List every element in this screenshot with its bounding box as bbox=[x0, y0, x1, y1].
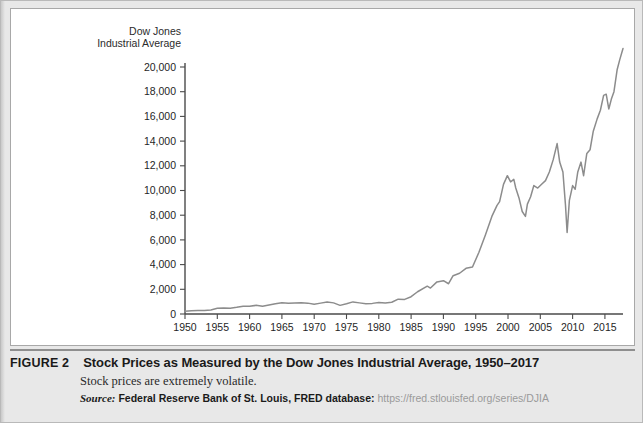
source-label: Source: bbox=[80, 392, 115, 404]
y-axis-tick-label: 2,000 bbox=[150, 283, 176, 295]
chart-panel: Dow JonesIndustrial Average02,0004,0006,… bbox=[10, 8, 635, 346]
x-axis-tick-label: 1990 bbox=[432, 321, 456, 333]
x-axis-tick-label: 2015 bbox=[593, 321, 617, 333]
y-axis-tick-label: 20,000 bbox=[144, 61, 176, 73]
caption-divider bbox=[10, 349, 635, 351]
figure-caption: FIGURE 2 Stock Prices as Measured by the… bbox=[10, 353, 635, 415]
y-axis-tick-label: 16,000 bbox=[144, 110, 176, 122]
y-axis-tick-label: 10,000 bbox=[144, 184, 176, 196]
djia-data-line bbox=[185, 48, 623, 311]
x-axis-tick-label: 2005 bbox=[529, 321, 553, 333]
source-organization: Federal Reserve Bank of St. Louis, FRED … bbox=[118, 392, 374, 404]
y-axis-tick-label: 14,000 bbox=[144, 135, 176, 147]
x-axis-tick-label: 1975 bbox=[335, 321, 359, 333]
x-axis-tick-label: 1960 bbox=[238, 321, 262, 333]
figure-number-label: FIGURE 2 bbox=[10, 356, 69, 370]
x-axis-tick-label: 1970 bbox=[303, 321, 327, 333]
y-axis-tick-label: 0 bbox=[170, 308, 176, 320]
figure-subtitle: Stock prices are extremely volatile. bbox=[80, 374, 635, 389]
figure-title: Stock Prices as Measured by the Dow Jone… bbox=[83, 355, 539, 370]
x-axis-tick-label: 1980 bbox=[367, 321, 391, 333]
y-axis-tick-label: 12,000 bbox=[144, 159, 176, 171]
y-axis-tick-label: 4,000 bbox=[150, 258, 176, 270]
x-axis-tick-label: 2000 bbox=[496, 321, 520, 333]
figure-container: Dow JonesIndustrial Average02,0004,0006,… bbox=[0, 0, 643, 423]
x-axis-tick-label: 1995 bbox=[464, 321, 488, 333]
y-axis-title-line1: Dow Jones bbox=[129, 25, 181, 37]
x-axis-tick-label: 1950 bbox=[173, 321, 197, 333]
figure-source: Source: Federal Reserve Bank of St. Loui… bbox=[80, 392, 635, 404]
y-axis-title-line2: Industrial Average bbox=[97, 37, 181, 49]
y-axis-tick-label: 18,000 bbox=[144, 85, 176, 97]
x-axis-tick-label: 1985 bbox=[399, 321, 423, 333]
x-axis-tick-label: 1955 bbox=[206, 321, 230, 333]
x-axis-tick-label: 2010 bbox=[561, 321, 585, 333]
x-axis-tick-label: 1965 bbox=[270, 321, 294, 333]
source-url[interactable]: https://fred.stlouisfed.org/series/DJIA bbox=[377, 392, 549, 404]
y-axis-tick-label: 6,000 bbox=[150, 234, 176, 246]
y-axis-tick-label: 8,000 bbox=[150, 209, 176, 221]
djia-line-chart: Dow JonesIndustrial Average02,0004,0006,… bbox=[11, 9, 636, 345]
